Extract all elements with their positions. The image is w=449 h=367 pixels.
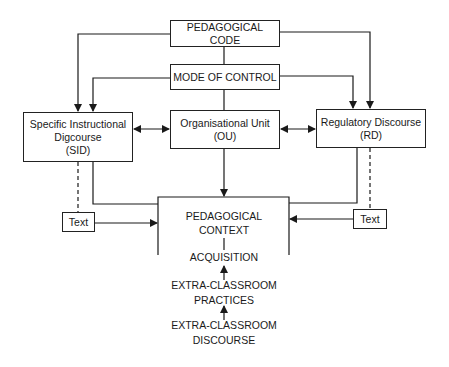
- edge-mode-sid: [93, 78, 170, 111]
- ou-box: Organisational Unit (OU): [170, 110, 280, 149]
- sid-line3: (SID): [66, 144, 91, 157]
- text-left-label: Text: [69, 216, 88, 229]
- mode-of-control-label: MODE OF CONTROL: [173, 71, 276, 84]
- extra-classroom-practices-label: EXTRA-CLASSROOM PRACTICES: [171, 279, 277, 307]
- extra-discourse-line2: DISCOURSE: [171, 334, 277, 347]
- connector-lines: [0, 0, 449, 367]
- text-right-box: Text: [353, 209, 387, 229]
- sid-box: Specific Instructional Digcourse (SID): [23, 112, 133, 162]
- edge-sid-context: [93, 162, 158, 204]
- ou-line1: Organisational Unit: [180, 117, 269, 130]
- pedagogical-context-label: PEDAGOGICAL CONTEXT: [186, 210, 262, 237]
- rd-box: Regulatory Discourse (RD): [316, 109, 426, 148]
- edge-pedcode-sid: [78, 34, 170, 111]
- text-left-box: Text: [62, 212, 95, 232]
- extra-discourse-line1: EXTRA-CLASSROOM: [171, 319, 277, 332]
- extra-practices-line1: EXTRA-CLASSROOM: [171, 279, 277, 292]
- edge-rd-context: [289, 148, 357, 203]
- pedagogical-context-line1: PEDAGOGICAL: [186, 210, 262, 223]
- mode-of-control-box: MODE OF CONTROL: [170, 64, 280, 90]
- rd-line2: (RD): [360, 129, 382, 142]
- pedagogical-context-line2: CONTEXT: [186, 224, 262, 237]
- text-right-label: Text: [360, 213, 379, 226]
- edge-mode-rd: [280, 76, 353, 108]
- sid-line2: Digcourse: [54, 131, 101, 144]
- ou-line2: (OU): [214, 130, 237, 143]
- pedagogical-code-box: PEDAGOGICAL CODE: [170, 20, 280, 47]
- rd-line1: Regulatory Discourse: [321, 116, 421, 129]
- pedagogical-code-label: PEDAGOGICAL CODE: [171, 21, 279, 47]
- sid-line1: Specific Instructional: [30, 118, 126, 131]
- edge-pedcode-rd: [280, 32, 370, 108]
- extra-classroom-discourse-label: EXTRA-CLASSROOM DISCOURSE: [171, 319, 277, 347]
- acquisition-label: ACQUISITION: [190, 251, 258, 264]
- extra-practices-line2: PRACTICES: [171, 294, 277, 307]
